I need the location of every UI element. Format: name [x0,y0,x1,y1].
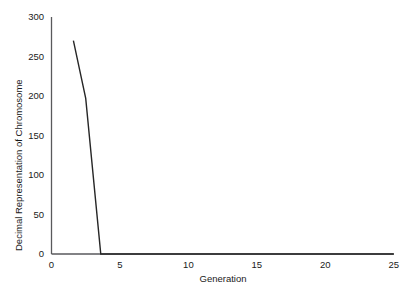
y-tick-label: 150 [28,131,44,141]
y-tick-label: 200 [28,91,44,101]
x-tick-label: 10 [183,260,194,270]
chart-container: 300 250 200 150 100 50 0 0 5 10 15 20 25… [0,0,412,291]
x-axis-title: Generation [199,274,246,284]
plot-area [0,0,412,291]
y-tick-label: 50 [33,210,44,220]
y-tick-label: 250 [28,52,44,62]
y-tick-label: 100 [28,170,44,180]
x-tick-label: 20 [320,260,331,270]
x-tick-label: 5 [117,260,122,270]
y-axis-title: Decimal Representation of Chromosome [14,79,24,251]
x-tick-label: 0 [49,260,54,270]
data-line-series-0 [73,41,393,254]
y-tick-label: 300 [28,12,44,22]
y-tick-label: 0 [39,249,44,259]
x-tick-label: 25 [388,260,399,270]
x-tick-label: 15 [252,260,263,270]
